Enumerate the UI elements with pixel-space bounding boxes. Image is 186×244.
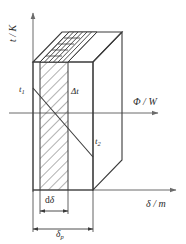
delta-p-subscript: p bbox=[60, 233, 63, 240]
delta-t-label: Δt bbox=[71, 87, 79, 96]
element-slab-top bbox=[40, 32, 97, 62]
dimension-lines bbox=[33, 190, 93, 232]
figure-container: t / K Φ / W δ / m t1 t2 Δt dδ δp bbox=[0, 0, 186, 244]
t1-subscript: 1 bbox=[22, 88, 25, 95]
element-slab-front bbox=[40, 62, 68, 190]
t2-label: t2 bbox=[95, 137, 101, 147]
d-delta-symbol: δ bbox=[50, 195, 54, 205]
heat-flow-axis-label: Φ / W bbox=[133, 97, 157, 107]
delta-p-label: δp bbox=[56, 230, 64, 240]
temperature-axis-label: t / K bbox=[8, 25, 18, 42]
t1-label: t1 bbox=[19, 85, 25, 95]
t2-subscript: 2 bbox=[98, 140, 101, 147]
block-right-face bbox=[93, 32, 122, 190]
d-delta-label: dδ bbox=[45, 196, 54, 206]
thickness-axis-label: δ / m bbox=[146, 199, 166, 209]
